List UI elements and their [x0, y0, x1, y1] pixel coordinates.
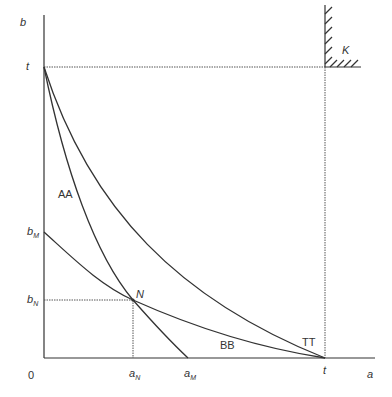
labels: b a 0 t bM bN aN aM t AA BB TT N K: [20, 16, 373, 381]
guide-lines: [44, 67, 325, 358]
point-N: [131, 298, 134, 301]
origin-label: 0: [28, 369, 34, 381]
x-tick-aM: aM: [184, 367, 196, 381]
curve-label-TT: TT: [302, 336, 316, 348]
diagram-canvas: b a 0 t bM bN aN aM t AA BB TT N K: [0, 0, 392, 397]
region-K-boundary: [325, 5, 361, 67]
curve-label-BB: BB: [220, 339, 235, 351]
region-label-K: K: [342, 44, 350, 56]
point-label-N: N: [136, 288, 144, 300]
curve-TT: [44, 67, 325, 358]
x-tick-aN: aN: [129, 367, 141, 381]
y-tick-bM: bM: [27, 225, 39, 239]
y-axis-label: b: [20, 16, 26, 28]
x-tick-t: t: [323, 364, 327, 376]
y-tick-t: t: [26, 60, 30, 72]
curve-label-AA: AA: [58, 188, 73, 200]
curves: [44, 67, 325, 358]
x-axis-label: a: [367, 368, 373, 380]
y-tick-bN: bN: [27, 293, 39, 307]
